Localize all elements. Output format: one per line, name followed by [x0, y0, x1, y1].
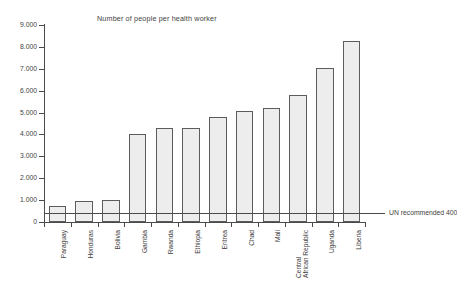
category-label: Mali [274, 230, 281, 242]
x-tick-mark [285, 222, 286, 227]
bar [343, 41, 361, 222]
category-label-line: Eritrea [221, 230, 228, 249]
y-tick-label: 7.000 [3, 65, 37, 72]
bar [263, 108, 281, 222]
category-label-line: Liberia [355, 230, 362, 250]
x-tick-mark [124, 222, 125, 227]
un-recommended-label: UN recommended 400 [389, 209, 457, 216]
y-tick-label: 2.000 [3, 174, 37, 181]
category-label-line: Gambia [141, 230, 148, 253]
y-tick-label: 9.000 [3, 21, 37, 28]
y-tick-label: 4.000 [3, 130, 37, 137]
category-label-line: Rwanda [167, 230, 174, 254]
y-tick-label: 6.000 [3, 87, 37, 94]
category-label: Rwanda [167, 230, 174, 254]
category-label: Bolivia [114, 230, 121, 249]
un-recommended-line [44, 213, 385, 214]
category-label: Liberia [355, 230, 362, 250]
bar [182, 128, 200, 222]
category-label-line: Chad [248, 230, 255, 246]
bar [209, 117, 227, 222]
x-tick-mark [231, 222, 232, 227]
y-tick-label: 0 [3, 218, 37, 225]
category-label: Chad [248, 230, 255, 246]
x-tick-mark [205, 222, 206, 227]
x-tick-mark [365, 222, 366, 227]
x-tick-mark [338, 222, 339, 227]
category-label: Uganda [328, 230, 335, 253]
x-tick-mark [44, 222, 45, 227]
chart-title: Number of people per health worker [97, 14, 217, 23]
category-label-line: Honduras [87, 230, 94, 259]
bar [102, 200, 120, 222]
category-label-line: Bolivia [114, 230, 121, 249]
y-tick-label: 5.000 [3, 109, 37, 116]
category-label: Eritrea [221, 230, 228, 249]
category-label-line: Central [295, 257, 302, 278]
bar [156, 128, 174, 222]
x-tick-mark [98, 222, 99, 227]
x-tick-mark [151, 222, 152, 227]
category-label-line: Mali [274, 230, 281, 242]
bar [236, 111, 254, 222]
category-label-line: Ethiopia [194, 230, 201, 254]
category-label: Gambia [141, 230, 148, 253]
category-label-line: Paraguay [60, 230, 67, 258]
bar [75, 201, 93, 222]
x-tick-mark [71, 222, 72, 227]
x-tick-mark [258, 222, 259, 227]
y-tick-label: 1.000 [3, 196, 37, 203]
bar [129, 134, 147, 222]
category-label: Ethiopia [194, 230, 201, 254]
bar-series [44, 25, 365, 222]
x-tick-mark [178, 222, 179, 227]
bar [289, 95, 307, 222]
y-tick-label: 8.000 [3, 43, 37, 50]
category-label: Paraguay [60, 230, 67, 258]
x-tick-mark [312, 222, 313, 227]
bar [316, 68, 334, 222]
category-label: CentralAfrican Republic [295, 230, 310, 278]
category-label: Honduras [87, 230, 94, 259]
y-tick-label: 3.000 [3, 152, 37, 159]
category-label-line: Uganda [328, 230, 335, 253]
category-label-line: African Republic [303, 230, 310, 278]
